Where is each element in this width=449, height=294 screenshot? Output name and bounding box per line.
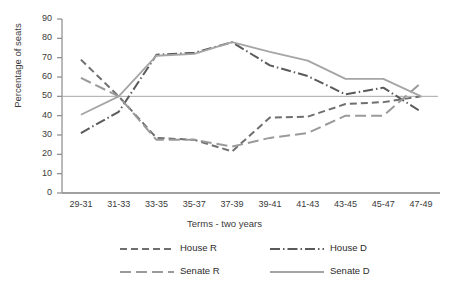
series-line-house-r [81,60,421,152]
line-chart: Percentage of seats Terms - two years 01… [0,0,449,294]
series-line-senate-r [81,78,421,147]
plot-area [0,0,449,294]
axis-lines [57,19,440,193]
series-line-house-d [81,42,421,133]
y-tick-marks [57,19,62,193]
